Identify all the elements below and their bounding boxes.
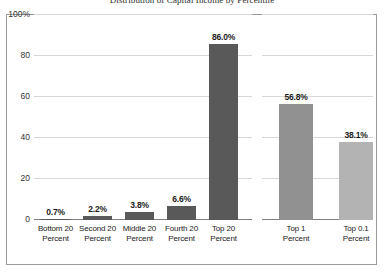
bar-value-label: 38.1% bbox=[344, 130, 367, 140]
bar-value-label: 2.2% bbox=[88, 204, 107, 214]
bar-group: 38.1% bbox=[339, 14, 373, 220]
panel-quintiles: 0.7%2.2%3.8%6.6%86.0% bbox=[34, 14, 252, 220]
bar bbox=[167, 206, 196, 220]
category-label-line2: Percent bbox=[34, 234, 77, 244]
bar-value-label: 0.7% bbox=[46, 207, 65, 217]
category-label: Top 20Percent bbox=[202, 224, 245, 244]
bar-value-label: 3.8% bbox=[130, 200, 149, 210]
bar-group: 2.2% bbox=[83, 14, 112, 220]
bar-group: 0.7% bbox=[41, 14, 70, 220]
category-label-line2: Percent bbox=[332, 234, 380, 244]
category-label-line2: Percent bbox=[272, 234, 320, 244]
y-axis-tick-label: 20 bbox=[0, 173, 30, 183]
chart-figure: Distribution of Capital Income by Percen… bbox=[0, 0, 384, 272]
y-axis-tick-label: 40 bbox=[0, 132, 30, 142]
category-label-line1: Top 0.1 bbox=[332, 224, 380, 234]
bar bbox=[125, 212, 154, 220]
bar-group: 56.8% bbox=[279, 14, 313, 220]
category-label: Top 0.1Percent bbox=[332, 224, 380, 244]
category-label-line1: Second 20 bbox=[76, 224, 119, 234]
y-axis-tick-label: 60 bbox=[0, 91, 30, 101]
bar-value-label: 86.0% bbox=[212, 32, 235, 42]
bar bbox=[209, 44, 238, 220]
category-label-line2: Percent bbox=[202, 234, 245, 244]
panel-top-shares: 56.8%38.1% bbox=[262, 14, 373, 220]
y-axis-tick-label: 0 bbox=[0, 214, 30, 224]
category-label: Second 20Percent bbox=[76, 224, 119, 244]
category-label-line2: Percent bbox=[118, 234, 161, 244]
bar bbox=[339, 142, 373, 220]
y-axis-tick-label: 80 bbox=[0, 50, 30, 60]
category-label-line1: Middle 20 bbox=[118, 224, 161, 234]
category-label: Fourth 20Percent bbox=[160, 224, 203, 244]
category-label: Top 1Percent bbox=[272, 224, 320, 244]
bar bbox=[41, 219, 70, 220]
bar-value-label: 56.8% bbox=[284, 92, 307, 102]
category-label-line1: Bottom 20 bbox=[34, 224, 77, 234]
category-label-line2: Percent bbox=[160, 234, 203, 244]
category-label: Bottom 20Percent bbox=[34, 224, 77, 244]
category-label: Middle 20Percent bbox=[118, 224, 161, 244]
bar bbox=[83, 216, 112, 221]
bar-value-label: 6.6% bbox=[172, 194, 191, 204]
bar-group: 3.8% bbox=[125, 14, 154, 220]
bar-group: 86.0% bbox=[209, 14, 238, 220]
chart-title: Distribution of Capital Income by Percen… bbox=[0, 0, 384, 5]
y-axis-tick-label: 100% bbox=[0, 9, 30, 19]
bar bbox=[279, 104, 313, 220]
bar-group: 6.6% bbox=[167, 14, 196, 220]
category-label-line1: Top 1 bbox=[272, 224, 320, 234]
category-label-line1: Top 20 bbox=[202, 224, 245, 234]
category-label-line1: Fourth 20 bbox=[160, 224, 203, 234]
category-label-line2: Percent bbox=[76, 234, 119, 244]
